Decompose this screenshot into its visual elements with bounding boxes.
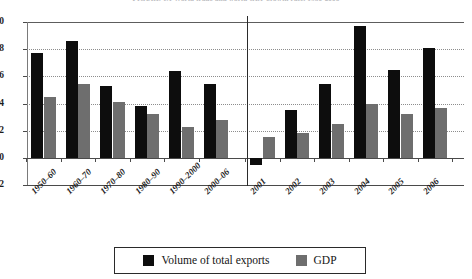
bar-gdp-2004: [366, 104, 378, 158]
y-axis-label-6: 6: [0, 71, 4, 81]
x-tick-2006: [418, 158, 419, 162]
bar-gdp-1950-60: [44, 97, 56, 158]
y-axis-label-0: 0: [0, 153, 4, 163]
bar-gdp-1960-70: [78, 84, 90, 157]
bar-exports-1960-70: [66, 41, 78, 158]
x-tick-2002: [280, 158, 281, 162]
legend-label-exports: Volume of total exports: [161, 255, 269, 267]
legend-swatch-gdp-icon: [296, 255, 307, 266]
x-tick-end: [452, 158, 453, 162]
plot-area: [27, 22, 464, 185]
chart-legend: Volume of total exportsGDP: [114, 247, 366, 274]
bar-gdp-2001: [263, 137, 275, 157]
bar-exports-1970-80: [100, 86, 112, 158]
axis-top-line: [27, 22, 464, 23]
x-tick-1960-70: [61, 158, 62, 162]
period-separator-line: [247, 16, 248, 186]
bar-gdp-2002: [297, 133, 309, 157]
y-tick--2: [23, 185, 27, 186]
y-axis-label-2: 2: [0, 126, 4, 136]
bar-exports-1990-2000: [169, 71, 181, 158]
gridline-8: [27, 49, 464, 50]
bar-gdp-2006: [435, 108, 447, 158]
bar-gdp-2005: [401, 114, 413, 157]
x-tick-2004: [349, 158, 350, 162]
bar-gdp-1970-80: [113, 102, 125, 158]
y-axis-label--2: -2: [0, 180, 4, 190]
bar-gdp-1980-90: [147, 114, 159, 157]
bar-exports-1980-90: [135, 106, 147, 158]
x-tick-1980-90: [130, 158, 131, 162]
bar-exports-2006: [423, 48, 435, 158]
bar-exports-2003: [319, 84, 331, 157]
y-axis-label-4: 4: [0, 99, 4, 109]
y-tick-6: [23, 76, 27, 77]
y-tick-2: [23, 131, 27, 132]
chart-title: FIGURE 1.1 World trade and world GDP gro…: [0, 0, 472, 1]
bar-exports-2000-06: [204, 84, 216, 157]
x-tick-2001: [245, 158, 246, 162]
y-tick-4: [23, 104, 27, 105]
legend-item-exports[interactable]: Volume of total exports: [143, 255, 269, 267]
x-tick-2005: [383, 158, 384, 162]
y-tick-8: [23, 49, 27, 50]
bar-exports-2002: [285, 110, 297, 158]
y-axis-label-8: 8: [0, 44, 4, 54]
bar-gdp-2003: [332, 124, 344, 158]
bar-gdp-2000-06: [216, 120, 228, 158]
bar-exports-2004: [354, 26, 366, 158]
bar-exports-2001: [250, 158, 262, 165]
legend-item-gdp[interactable]: GDP: [296, 255, 337, 267]
y-tick-10: [23, 22, 27, 23]
y-axis-label-10: 10: [0, 17, 4, 27]
x-tick-2003: [314, 158, 315, 162]
x-tick-1970-80: [95, 158, 96, 162]
bar-gdp-1990-2000: [182, 127, 194, 158]
legend-swatch-exports-icon: [143, 255, 154, 266]
y-tick-0: [23, 158, 27, 159]
bar-exports-1950-60: [31, 53, 43, 158]
x-tick-2000-06: [199, 158, 200, 162]
legend-label-gdp: GDP: [314, 255, 337, 267]
bar-exports-2005: [388, 70, 400, 158]
x-tick-1990-2000: [164, 158, 165, 162]
